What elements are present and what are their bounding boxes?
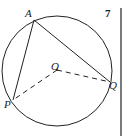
label-a: A (24, 7, 32, 19)
label-o: O (51, 60, 59, 72)
chord-aq (34, 20, 110, 82)
label-p: P (3, 98, 11, 110)
label-q: Q (109, 79, 117, 91)
question-number: 7 (105, 7, 111, 19)
circle-diagram: A P Q O 7 (0, 0, 126, 136)
